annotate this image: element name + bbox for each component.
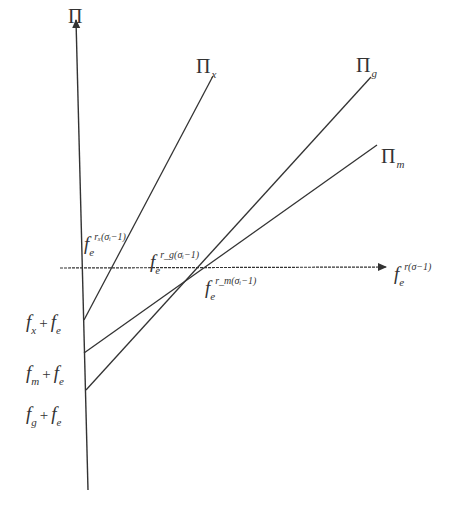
cutoff-label-m-sup: r_m(σᵢ−1) [215,275,256,286]
diagram-canvas [0,0,460,508]
intercept-g-b-sub: e [57,416,62,428]
cutoff-label-x-sub: e [89,246,94,258]
cutoff-label-g-sub: e [155,264,160,276]
cutoff-label-g: fer_g(σᵢ−1) [150,250,199,276]
intercept-label-x: fx+fe [26,312,61,336]
x-axis-label-sub: e [399,276,404,288]
cutoff-label-g-sup: r_g(σᵢ−1) [160,249,199,260]
y-axis-label: Π [68,6,82,26]
x-axis-label: fer(σ−1) [394,262,431,288]
x-axis [60,267,386,268]
line-label-pi-m: Πm [381,146,404,170]
cutoff-label-x-sup: rₓ(σᵢ−1) [94,231,126,242]
line-label-pi-x: Πx [196,56,216,80]
line-label-pi-g-sub: g [371,67,377,79]
profit-line-x [84,76,213,320]
line-label-pi-x-symbol: Π [196,55,210,77]
intercept-m-plus: + [42,366,50,382]
intercept-m-a-sub: m [31,375,39,387]
line-label-pi-x-sub: x [211,68,216,80]
line-label-pi-g-symbol: Π [356,54,370,76]
line-label-pi-m-sub: m [396,158,404,170]
cutoff-label-m-sub: e [210,290,215,302]
intercept-g-a-sub: g [31,416,37,428]
line-label-pi-m-symbol: Π [381,145,395,167]
pi-symbol: Π [68,5,82,27]
intercept-x-b-sub: e [56,324,61,336]
profit-line-g [86,77,371,390]
line-label-pi-g: Πg [356,55,377,79]
intercept-label-g: fg+fe [26,404,61,428]
x-axis-label-sup: r(σ−1) [404,261,431,272]
intercept-label-m: fm+fe [26,363,64,387]
intercept-g-plus: + [40,407,48,423]
cutoff-label-m: fer_m(σᵢ−1) [205,276,256,302]
profit-line-m [84,145,377,353]
intercept-x-plus: + [39,315,47,331]
intercept-m-b-sub: e [59,375,64,387]
intercept-x-a-sub: x [31,324,36,336]
cutoff-label-x: ferₓ(σᵢ−1) [84,232,126,258]
